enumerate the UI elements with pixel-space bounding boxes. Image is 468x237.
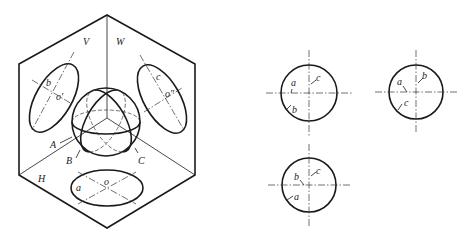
diagram-canvas: V W H b o' c o" a o A B C bbox=[0, 0, 468, 237]
sphere-label-b: B bbox=[66, 155, 72, 166]
side-view bbox=[375, 50, 457, 134]
front-view bbox=[266, 50, 352, 136]
leader-c bbox=[135, 148, 138, 153]
side-view-label-c: c bbox=[404, 97, 409, 108]
front-view-label-a: a bbox=[291, 77, 296, 88]
top-view-label-a: a bbox=[294, 191, 299, 202]
plane-label-h: H bbox=[37, 173, 46, 184]
w-label-o-double-prime: o" bbox=[165, 88, 175, 99]
top-view-label-b: b bbox=[294, 171, 299, 182]
side-view-label-a: a bbox=[397, 76, 402, 87]
w-label-c: c bbox=[156, 71, 161, 82]
side-view-label-b: b bbox=[422, 70, 427, 81]
h-label-a: a bbox=[76, 182, 81, 193]
plane-label-v: V bbox=[83, 36, 91, 47]
h-label-o: o bbox=[104, 176, 109, 187]
plane-label-w: W bbox=[116, 36, 126, 47]
v-label-b: b bbox=[46, 77, 51, 88]
v-h-edge bbox=[19, 118, 107, 175]
sphere bbox=[72, 88, 140, 156]
front-view-label-c: c bbox=[316, 72, 321, 83]
v-projection-ellipse bbox=[19, 52, 88, 140]
w-projection-ellipse bbox=[127, 55, 196, 141]
top-view-label-c: c bbox=[316, 165, 321, 176]
sphere-label-c: C bbox=[138, 155, 145, 166]
v-label-o-prime: o' bbox=[56, 91, 64, 102]
front-view-label-b: b bbox=[292, 104, 297, 115]
isometric-box bbox=[19, 15, 195, 228]
sphere-label-a: A bbox=[49, 139, 57, 150]
w-h-edge bbox=[107, 118, 195, 175]
top-view bbox=[268, 144, 350, 228]
leader-b bbox=[76, 150, 80, 158]
